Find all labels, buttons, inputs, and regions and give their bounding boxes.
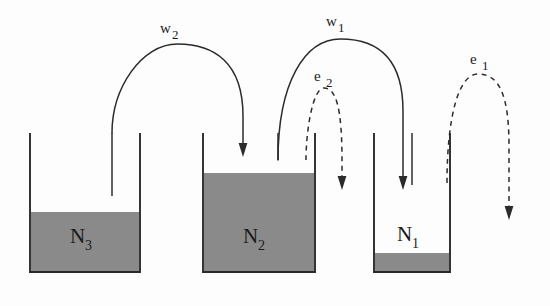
flow-e2-label-subscript: 2	[326, 75, 333, 90]
tank-n3-label: N	[70, 224, 85, 248]
flow-w1-arrowhead	[399, 176, 408, 190]
tank-n1-label: N	[397, 222, 412, 246]
flow-e2: e 2	[306, 68, 346, 190]
flow-w2-arrowhead	[239, 143, 248, 157]
flow-e2-arrowhead	[338, 176, 347, 190]
flow-e1-label: e	[470, 51, 477, 67]
diagram-canvas: N 3 N 2 N 1 w 2 w	[0, 0, 550, 306]
tank-n2-label-subscript: 2	[258, 238, 265, 253]
flow-e1: e 1	[447, 51, 513, 220]
flow-w2-label-subscript: 2	[172, 27, 179, 42]
flow-e2-label: e	[314, 68, 321, 84]
tank-n2-label: N	[243, 224, 258, 248]
flow-e1-label-subscript: 1	[482, 58, 489, 73]
tank-n1-label-subscript: 1	[412, 236, 419, 251]
flow-w2-arc	[112, 44, 243, 145]
reservoir-flow-diagram: N 3 N 2 N 1 w 2 w	[0, 0, 550, 306]
tank-n2-fill	[204, 173, 314, 272]
tank-n2: N 2	[203, 133, 315, 272]
flow-w1-label: w	[326, 13, 337, 29]
flow-w2-label: w	[160, 20, 171, 36]
flow-w1-arc	[278, 39, 403, 178]
tank-n3: N 3	[30, 133, 140, 272]
flow-e2-arc	[306, 88, 342, 178]
flow-w1: w 1	[278, 13, 407, 190]
flow-e1-arc	[447, 74, 509, 208]
tank-n3-label-subscript: 3	[85, 238, 92, 253]
flow-w2: w 2	[112, 20, 247, 157]
tank-n1-fill	[375, 253, 449, 272]
flow-w1-label-subscript: 1	[338, 20, 345, 35]
tank-n1: N 1	[374, 133, 450, 272]
flow-e1-arrowhead	[505, 206, 514, 220]
